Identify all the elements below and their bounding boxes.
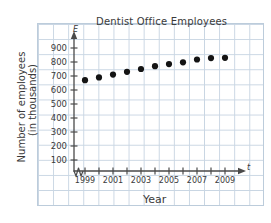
- data-point: [222, 55, 228, 61]
- data-point: [166, 61, 172, 67]
- chart-figure: Dentist Office Employees E t Year Number…: [0, 0, 271, 223]
- data-point: [138, 66, 144, 72]
- data-point: [194, 56, 200, 62]
- data-point: [152, 63, 158, 69]
- data-points-layer: [82, 55, 228, 84]
- axes-layer: [71, 31, 247, 176]
- plot-area: [0, 0, 271, 223]
- data-point: [180, 59, 186, 65]
- data-point: [96, 74, 102, 80]
- data-point: [82, 77, 88, 83]
- data-point: [110, 72, 116, 78]
- data-point: [124, 69, 130, 75]
- data-point: [208, 55, 214, 61]
